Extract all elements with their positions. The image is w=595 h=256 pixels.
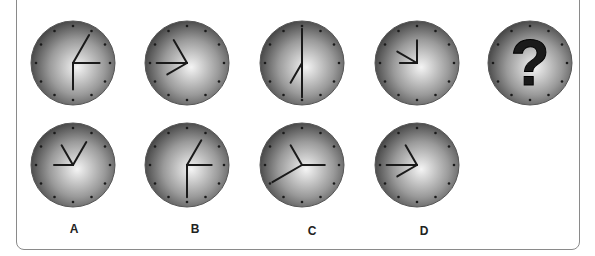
svg-text:?: ? <box>510 27 549 99</box>
sequence-clock-4 <box>374 20 460 106</box>
option-label-b: B <box>185 222 205 236</box>
clock-face-icon <box>259 122 345 208</box>
clock-face-icon <box>374 122 460 208</box>
sequence-clock-3 <box>259 20 345 106</box>
question-mark-icon: ? <box>487 20 573 106</box>
clock-face-icon <box>144 20 230 106</box>
option-clock-a[interactable] <box>30 122 116 208</box>
clock-face-icon <box>30 20 116 106</box>
sequence-clock-1 <box>30 20 116 106</box>
option-clock-d[interactable] <box>374 122 460 208</box>
option-clock-c[interactable] <box>259 122 345 208</box>
clock-face-icon <box>30 122 116 208</box>
option-clock-b[interactable] <box>144 122 230 208</box>
clock-face-icon <box>144 122 230 208</box>
question-mark-clock: ? <box>487 20 573 106</box>
sequence-clock-2 <box>144 20 230 106</box>
clock-face-icon <box>259 20 345 106</box>
option-label-d: D <box>414 224 434 238</box>
option-label-c: C <box>302 224 322 238</box>
option-label-a: A <box>64 222 84 236</box>
clock-face-icon <box>374 20 460 106</box>
